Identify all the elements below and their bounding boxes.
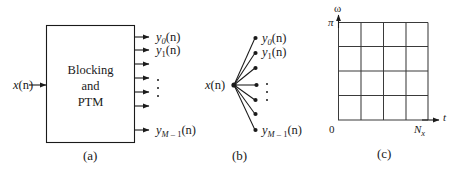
fanout-endpoints-b — [253, 36, 258, 132]
nx-sub: x — [421, 128, 425, 138]
figure-root: x(n) Blocking and PTM y0(n) y1(n) yM – 1… — [0, 0, 456, 169]
output-label-a-yM1: yM – 1(n) — [156, 124, 196, 137]
panel-c-graphics — [338, 15, 439, 120]
input-label-b-arg: (n) — [211, 78, 226, 92]
y1-arg-a: (n) — [166, 43, 181, 57]
time-frequency-grid — [338, 23, 428, 121]
input-label-b: x(n) — [205, 79, 225, 92]
ym1-sub-a: M — [162, 129, 169, 139]
t-axis-label: t — [443, 112, 446, 123]
panel-b-graphics — [231, 36, 258, 132]
ym1-base-b: y — [262, 123, 268, 137]
y1-base-b: y — [262, 45, 268, 59]
fanout-origin-node-b — [231, 82, 236, 87]
ym1-dash-b: – — [275, 129, 284, 139]
caption-a: (a) — [83, 149, 97, 162]
block-label-line-3: PTM — [46, 94, 135, 110]
output-label-b-yM1: yM – 1(n) — [262, 124, 302, 137]
nx-tick-label: Nx — [414, 124, 425, 135]
block-label-line-2: and — [46, 78, 135, 94]
ym1-dash-a: – — [169, 129, 178, 139]
y1-arg-b: (n) — [272, 45, 287, 59]
ym1-sub2-a: 1 — [177, 129, 181, 139]
y1-sub-b: 1 — [268, 51, 272, 61]
block-label-a: Blocking and PTM — [46, 62, 135, 110]
pi-tick-label: π — [328, 17, 334, 28]
y0-base-a: y — [156, 30, 162, 44]
ym1-arg-b: (n) — [287, 123, 302, 137]
y0-arg-b: (n) — [272, 31, 287, 45]
output-label-a-y1: y1(n) — [156, 44, 180, 57]
ym1-sub2-b: 1 — [283, 129, 287, 139]
y0-base-b: y — [262, 31, 268, 45]
input-label-a: x(n) — [13, 79, 33, 92]
y1-base-a: y — [156, 43, 162, 57]
input-label-a-arg: (n) — [19, 78, 34, 92]
block-label-line-1: Blocking — [46, 62, 135, 78]
y0-arg-a: (n) — [166, 30, 181, 44]
output-label-b-y0: y0(n) — [262, 32, 286, 45]
ym1-arg-a: (n) — [181, 123, 196, 137]
output-arrows-a — [135, 37, 150, 130]
caption-b: (b) — [232, 149, 247, 162]
ym1-sub-b: M — [268, 129, 275, 139]
y1-sub-a: 1 — [162, 49, 166, 59]
ym1-base-a: y — [156, 123, 162, 137]
omega-axis-label: ω — [334, 3, 341, 14]
output-label-a-y0: y0(n) — [156, 31, 180, 44]
output-label-b-y1: y1(n) — [262, 46, 286, 59]
caption-c: (c) — [377, 147, 391, 160]
origin-tick-label: 0 — [329, 124, 335, 135]
fanout-branches-b — [234, 38, 256, 130]
